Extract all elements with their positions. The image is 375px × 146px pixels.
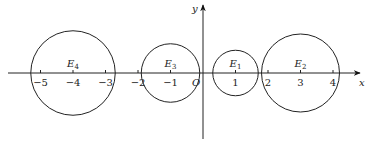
x-tick-label: −4	[66, 77, 81, 88]
circle-label: E4	[66, 58, 79, 71]
axes: x y O	[8, 3, 365, 139]
coordinate-diagram: x y O −5−4−3−2−11234 E4E3E1E2	[0, 0, 375, 146]
x-tick-label: −5	[33, 77, 48, 88]
x-axis-label: x	[359, 77, 365, 88]
x-tick-label: 4	[330, 77, 336, 88]
x-tick-label: −3	[98, 77, 113, 88]
x-tick-label: 1	[232, 77, 238, 88]
x-tick-label: −1	[163, 77, 178, 88]
circle-label: E1	[229, 58, 242, 71]
x-tick-label: 3	[297, 77, 303, 88]
circle-label: E3	[164, 58, 177, 71]
x-tick-label: 2	[265, 77, 271, 88]
y-axis-label: y	[191, 3, 198, 14]
circle-label: E2	[294, 58, 307, 71]
